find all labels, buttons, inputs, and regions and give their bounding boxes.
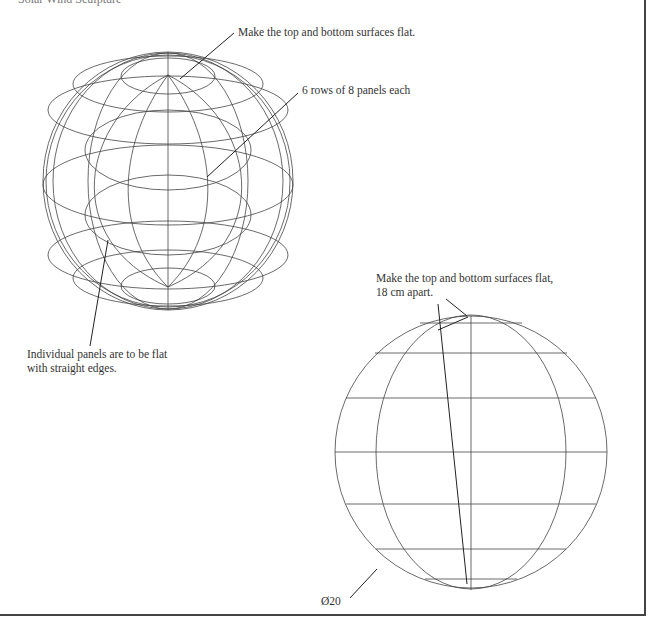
elevation-sphere	[335, 315, 607, 590]
leader-diameter	[350, 569, 377, 598]
perspective-sphere	[43, 52, 293, 310]
leader-flat-apart-3	[446, 299, 467, 316]
annotation-top-flat: Make the top and bottom surfaces flat.	[238, 26, 415, 39]
leader-top-flat	[180, 33, 234, 79]
annotation-panels-line1: Individual panels are to be flat	[27, 348, 167, 361]
diameter-dimension: Ø20	[321, 595, 341, 608]
annotation-rows: 6 rows of 8 panels each	[302, 84, 410, 97]
leader-flat-apart-2	[438, 304, 467, 584]
annotation-flat-apart-line1: Make the top and bottom surfaces flat,	[376, 272, 553, 285]
leader-rows	[207, 93, 298, 177]
annotation-panels-line2: with straight edges.	[27, 362, 117, 375]
annotation-flat-apart-line2: 18 cm apart.	[376, 286, 433, 299]
